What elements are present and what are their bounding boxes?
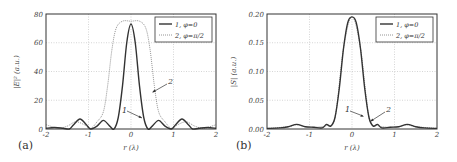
y-tick-label-b: 0.05 [248, 97, 264, 105]
legend-a: 1, φ=0 2, φ=π/2 [155, 17, 212, 42]
y-tick-label-b: 0.20 [248, 11, 264, 19]
annotations-a: 1 2 [122, 77, 173, 118]
panel-label-a: (a) [18, 139, 33, 152]
x-tick-label-b: -1 [306, 131, 313, 139]
x-tick-label-a: -2 [43, 131, 50, 139]
x-tick-label-b: 2 [434, 131, 440, 139]
annotation-2-b: 2 [385, 105, 391, 114]
panel-label-b: (b) [236, 139, 252, 152]
chart-panel-b: -2-10120.000.050.100.150.20 |S| (a.u.) r… [230, 11, 440, 153]
chart-panel-a: -2-1012020406080 |E|² (a.u.) r (λ) (a) 1… [13, 11, 219, 153]
legend-entry-1-b: 1, φ=0 [396, 21, 418, 29]
annotation-1-b: 1 [345, 105, 350, 114]
y-tick-label-a: 0 [39, 126, 44, 134]
annotation-1-a: 1 [122, 106, 127, 115]
y-tick-label-a: 40 [33, 68, 43, 76]
annotation-2-a: 2 [167, 77, 173, 86]
legend-b: 1, φ=0 2, φ=π/2 [376, 17, 433, 42]
legend-entry-2-a: 2, φ=π/2 [174, 32, 204, 40]
y-axis-label-b: |S| (a.u.) [230, 57, 238, 88]
y-axis-label-a: |E|² (a.u.) [13, 55, 21, 89]
x-tick-label-b: -2 [264, 131, 271, 139]
x-tick-label-a: 1 [171, 131, 175, 139]
arrowhead-1-a [139, 116, 143, 118]
y-tick-label-a: 60 [34, 39, 43, 47]
legend-entry-2-b: 2, φ=π/2 [395, 32, 425, 40]
arrowhead-1-b [360, 114, 364, 116]
y-tick-label-a: 20 [33, 97, 43, 105]
y-tick-label-a: 80 [34, 11, 43, 19]
legend-entry-1-a: 1, φ=0 [175, 21, 197, 29]
arrowhead-2-b [370, 119, 374, 122]
y-tick-label-b: 0.15 [248, 39, 264, 47]
y-tick-label-b: 0.00 [248, 126, 264, 134]
x-tick-label-a: 0 [129, 131, 134, 139]
x-tick-label-b: 0 [350, 131, 355, 139]
x-tick-label-b: 1 [392, 131, 396, 139]
x-tick-label-a: 2 [213, 131, 219, 139]
arrow-2-b [371, 112, 385, 121]
x-tick-label-a: -1 [85, 131, 92, 139]
x-axis-label-b: r (λ) [344, 144, 360, 152]
x-axis-label-a: r (λ) [123, 144, 139, 152]
figure: -2-1012020406080 |E|² (a.u.) r (λ) (a) 1… [0, 0, 457, 162]
y-tick-label-b: 0.10 [248, 68, 264, 76]
